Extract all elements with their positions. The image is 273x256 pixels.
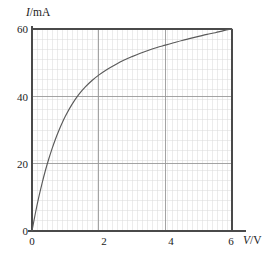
x-tick-label-0: 0 bbox=[23, 236, 41, 247]
x-tick-label-4: 4 bbox=[162, 236, 180, 247]
x-axis-title: V/V bbox=[243, 234, 262, 246]
y-tick-label-40: 40 bbox=[4, 92, 28, 103]
y-tick-label-20: 20 bbox=[4, 159, 28, 170]
y-axis-title: I/mA bbox=[26, 6, 50, 18]
minor-gridlines bbox=[32, 29, 232, 231]
chart-figure: 60 40 20 0 0 2 4 6 I/mA V/V bbox=[0, 0, 273, 256]
x-tick-label-6: 6 bbox=[222, 236, 240, 247]
plot-canvas bbox=[0, 0, 273, 256]
x-axis-variable: V bbox=[243, 234, 250, 246]
x-axis-unit: /V bbox=[250, 234, 262, 246]
y-tick-label-60: 60 bbox=[4, 24, 28, 35]
x-tick-label-2: 2 bbox=[95, 236, 113, 247]
y-axis-unit: /mA bbox=[30, 6, 50, 18]
